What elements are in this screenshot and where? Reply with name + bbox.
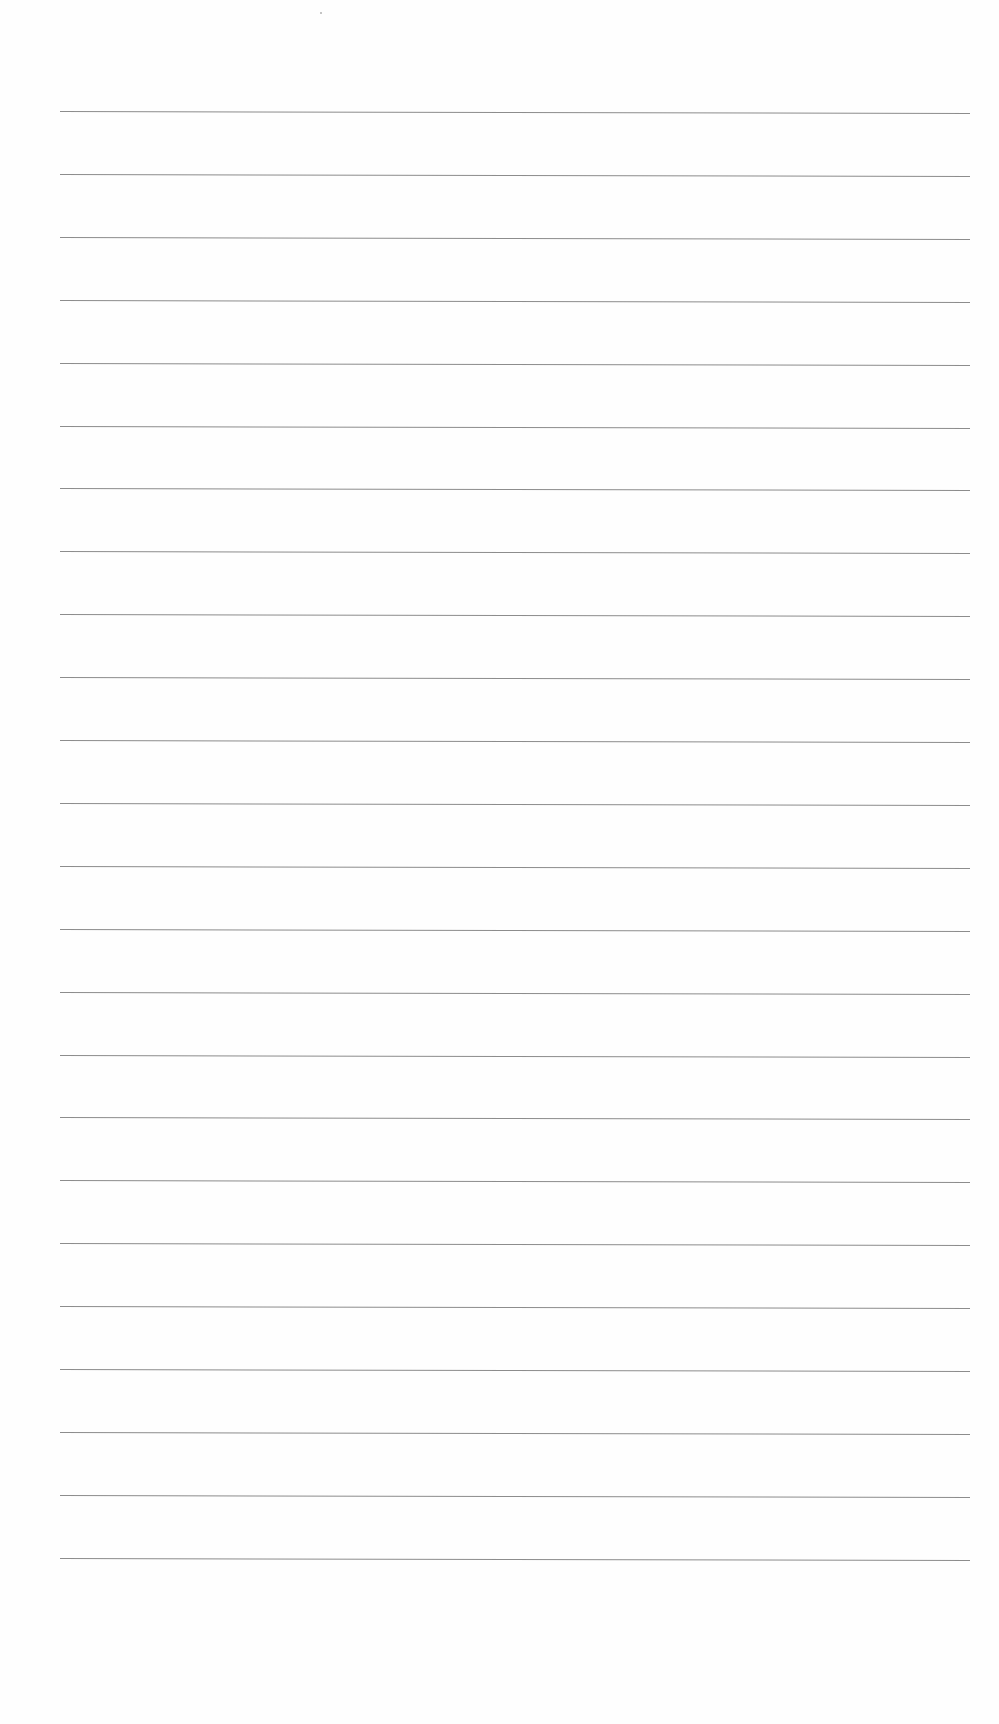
ruled-line: [60, 1432, 970, 1435]
ruled-line: [60, 614, 970, 617]
ruled-line: [60, 1243, 970, 1246]
ruled-line: [60, 803, 970, 806]
ruled-line: [60, 1558, 970, 1561]
ruled-line: [60, 1117, 970, 1120]
ruled-line: [60, 237, 970, 240]
ruled-line: [60, 929, 970, 932]
ruled-line: [60, 866, 970, 869]
ruled-line: [60, 1495, 970, 1498]
ruled-line: [60, 740, 970, 743]
ruled-line: [60, 111, 970, 114]
ruled-line: [60, 1180, 970, 1183]
ruled-line: [60, 1055, 970, 1058]
ruled-line: [60, 363, 970, 366]
ruled-line: [60, 1306, 970, 1309]
ruled-line: [60, 677, 970, 680]
ruled-line: [60, 300, 970, 303]
ruled-line: [60, 551, 970, 554]
ruled-line: [60, 1369, 970, 1372]
ruled-page: [0, 0, 999, 1724]
ruled-line: [60, 992, 970, 995]
ruled-line: [60, 174, 970, 177]
ruled-line: [60, 426, 970, 429]
ruled-line: [60, 488, 970, 491]
paper-speck: [320, 12, 322, 14]
